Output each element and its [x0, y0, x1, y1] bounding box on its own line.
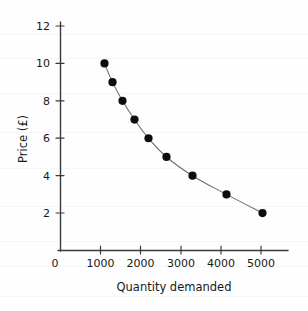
- x-axis-title: Quantity demanded: [117, 280, 232, 294]
- y-tick-label-6: 6: [43, 132, 50, 145]
- data-point-marker: [100, 59, 108, 67]
- y-axis-title: Price (£): [16, 115, 30, 163]
- x-tick-label-1000: 1000: [87, 257, 115, 270]
- plot-area: 12 10 8 6 4 2 0 1000 2000 3000 4000 5000…: [0, 0, 308, 311]
- demand-curve-chart: 12 10 8 6 4 2 0 1000 2000 3000 4000 5000…: [0, 0, 308, 311]
- y-tick-label-10: 10: [36, 57, 50, 70]
- y-tick-label-2: 2: [43, 207, 50, 220]
- data-point-marker: [144, 134, 152, 142]
- y-tick-label-4: 4: [43, 170, 50, 183]
- x-tick-label-4000: 4000: [207, 257, 235, 270]
- data-point-marker: [130, 115, 138, 123]
- data-point-marker: [222, 190, 230, 198]
- demand-curve-line: [105, 63, 263, 213]
- data-point-marker: [108, 78, 116, 86]
- demand-curve-markers: [100, 59, 266, 217]
- y-tick-label-12: 12: [36, 20, 50, 33]
- x-tick-label-2000: 2000: [127, 257, 155, 270]
- x-tick-label-5000: 5000: [247, 257, 275, 270]
- x-tick-label-0: 0: [52, 257, 59, 270]
- y-tick-label-8: 8: [43, 95, 50, 108]
- data-point-marker: [118, 97, 126, 105]
- data-point-marker: [258, 209, 266, 217]
- data-point-marker: [162, 153, 170, 161]
- x-tick-label-3000: 3000: [167, 257, 195, 270]
- data-point-marker: [188, 172, 196, 180]
